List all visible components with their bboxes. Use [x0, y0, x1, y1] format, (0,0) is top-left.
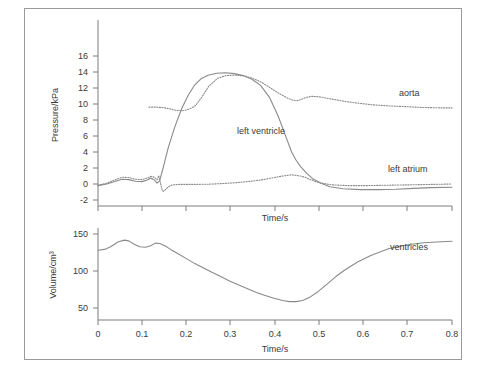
pressure-ytick-12: 12	[78, 83, 88, 93]
figure-container: 16 14 12 10 8 6 4 2 0 -2 Pres	[0, 0, 490, 375]
ventricles-label: ventricles	[390, 242, 429, 252]
aorta-label: aorta	[399, 88, 420, 98]
volume-xtick-0.1: 0.1	[136, 329, 149, 339]
chart-canvas: 16 14 12 10 8 6 4 2 0 -2 Pres	[0, 0, 490, 375]
volume-y-ticks	[93, 234, 98, 308]
left-atrium-label: left atrium	[388, 164, 428, 174]
pressure-y-axis-title: Pressure/kPa	[50, 88, 60, 142]
volume-xtick-0: 0	[95, 329, 100, 339]
volume-ytick-100: 100	[73, 266, 88, 276]
pressure-ytick-10: 10	[78, 99, 88, 109]
pressure-x-ticks	[98, 206, 452, 211]
pressure-ytick-neg2: -2	[80, 195, 88, 205]
pressure-ytick-4: 4	[83, 147, 88, 157]
volume-chart: 150 100 50 0 0.1 0.2 0.3 0.4 0.5 0.6 0.7	[48, 228, 458, 354]
pressure-y-ticks	[93, 56, 98, 200]
volume-xtick-0.6: 0.6	[357, 329, 370, 339]
pressure-ytick-16: 16	[78, 51, 88, 61]
pressure-ytick-2: 2	[83, 163, 88, 173]
volume-xtick-0.4: 0.4	[269, 329, 282, 339]
pressure-ytick-6: 6	[83, 131, 88, 141]
left-ventricle-label: left ventricle	[237, 126, 285, 136]
volume-xtick-0.3: 0.3	[224, 329, 237, 339]
volume-y-axis-title: Volume/cm³	[48, 251, 58, 299]
volume-xtick-0.8: 0.8	[446, 329, 459, 339]
volume-xtick-0.5: 0.5	[313, 329, 326, 339]
volume-ytick-150: 150	[73, 229, 88, 239]
pressure-ytick-14: 14	[78, 67, 88, 77]
volume-ytick-50: 50	[78, 303, 88, 313]
pressure-ytick-0: 0	[83, 179, 88, 189]
volume-x-ticks	[98, 320, 452, 325]
volume-xtick-0.7: 0.7	[401, 329, 414, 339]
volume-x-axis-title: Time/s	[262, 344, 289, 354]
pressure-chart: 16 14 12 10 8 6 4 2 0 -2 Pres	[50, 20, 452, 223]
volume-xtick-0.2: 0.2	[180, 329, 193, 339]
pressure-ytick-8: 8	[83, 115, 88, 125]
pressure-x-axis-title: Time/s	[262, 213, 289, 223]
